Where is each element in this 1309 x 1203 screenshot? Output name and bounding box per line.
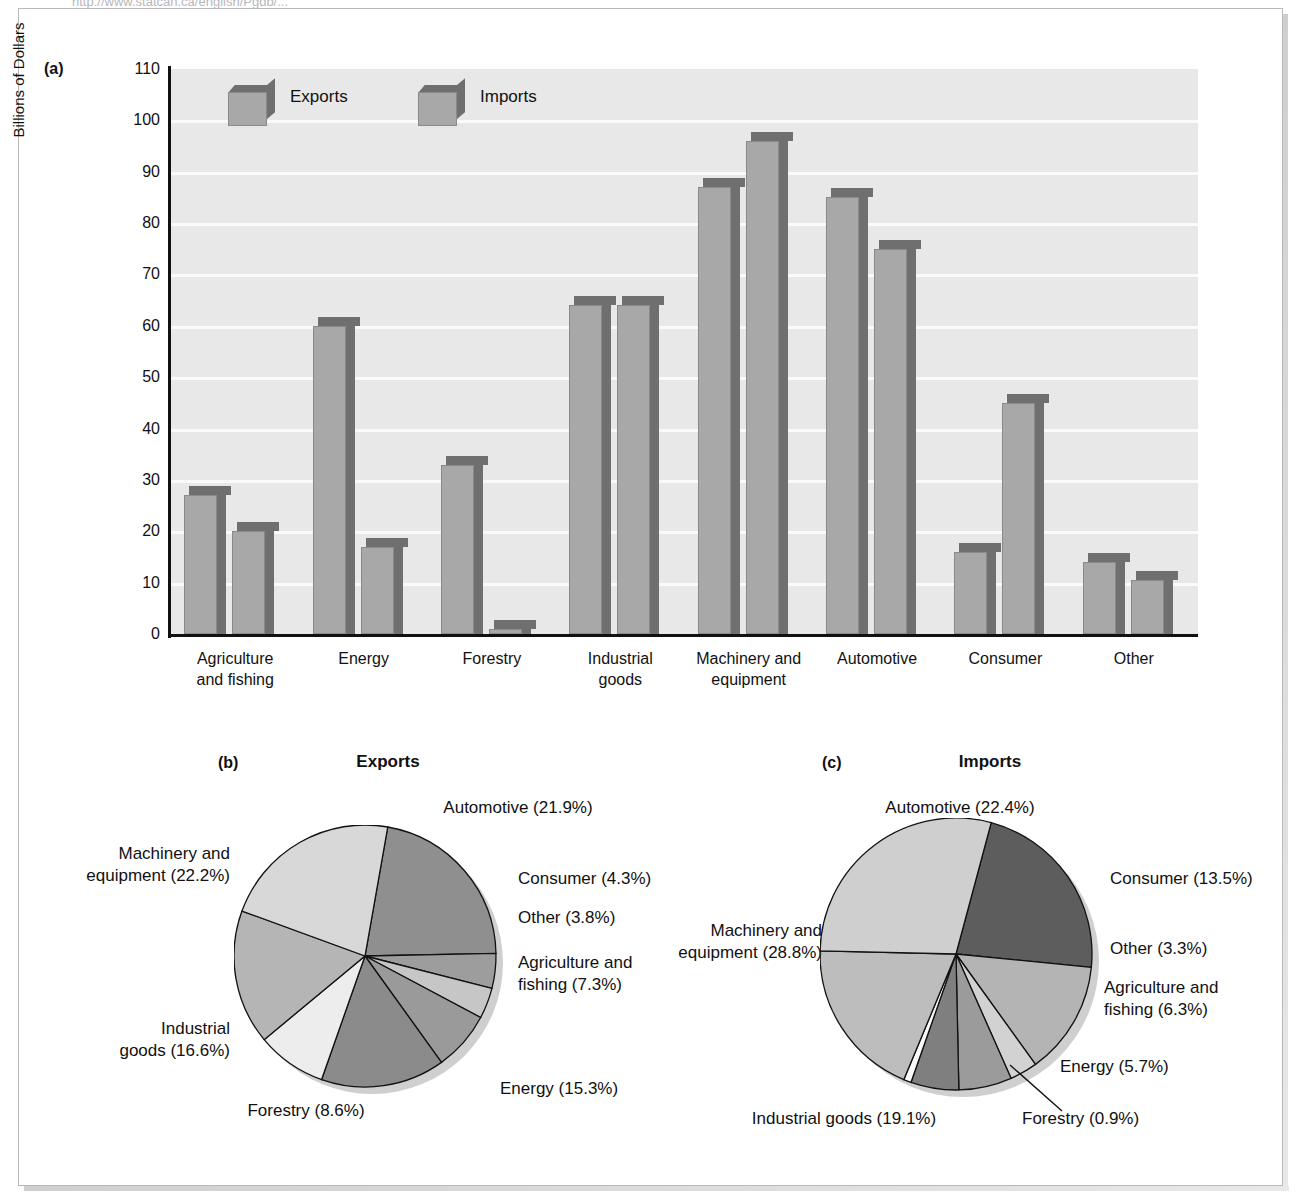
bar-imports-3 [617,296,659,634]
x-category-1: Energy [299,648,427,669]
y-tick-70: 70 [120,265,160,283]
panel-b-label-machinery: Machinery and equipment (22.2%) [18,843,230,887]
grid-line [171,223,1198,226]
bar-exports-6 [954,543,996,634]
y-tick-60: 60 [120,317,160,335]
y-tick-20: 20 [120,522,160,540]
bar-imports-5 [874,240,916,634]
x-axis-line [168,634,1198,637]
y-axis-tick-labels: 1101009080706050403020100 [112,69,160,634]
bar-imports-1 [361,538,403,634]
panel-c-label-agriculture: Agriculture and fishing (6.3%) [1104,977,1300,1021]
bar-exports-4 [698,178,740,634]
panel-b-pie [234,825,504,1095]
panel-a-bar-chart: (a) Billions of Dollars 1101009080706050… [0,0,1309,735]
y-tick-30: 30 [120,471,160,489]
x-category-5: Automotive [813,648,941,669]
chart-legend: ExportsImports [0,76,1309,130]
y-tick-90: 90 [120,163,160,181]
bar-exports-5 [826,188,868,634]
panel-c-label-energy: Energy (5.7%) [1060,1056,1250,1078]
panel-b-tag: (b) [218,754,238,772]
page-shadow-bottom [24,1186,1289,1191]
y-tick-40: 40 [120,420,160,438]
x-category-4: Machinery andequipment [685,648,813,690]
grid-line [171,172,1198,175]
bar-imports-0 [232,522,274,634]
bar-imports-4 [746,132,788,634]
bar-imports-2 [489,620,531,634]
y-tick-10: 10 [120,574,160,592]
panel-b-label-industrial: Industrial goods (16.6%) [30,1018,230,1062]
legend-cube-icon [228,85,274,119]
legend-label: Imports [480,87,537,107]
panel-c-label-consumer: Consumer (13.5%) [1110,868,1300,890]
bar-exports-1 [313,317,355,634]
y-axis-line [168,66,171,638]
bar-exports-3 [569,296,611,634]
panel-c-pie [820,818,1100,1098]
panel-b-title: Exports [268,752,508,772]
bar-imports-6 [1002,394,1044,634]
y-tick-0: 0 [120,625,160,643]
panel-c-label-machinery: Machinery and equipment (28.8%) [650,920,822,964]
x-category-6: Consumer [941,648,1069,669]
x-category-7: Other [1070,648,1198,669]
panel-c-forestry-leader-line [1010,1065,1070,1115]
panel-c-label-other: Other (3.3%) [1110,938,1300,960]
panel-c-title: Imports [870,752,1110,772]
bar-exports-0 [184,486,226,634]
panel-c-label-industrial: Industrial goods (19.1%) [694,1108,994,1130]
x-category-2: Forestry [428,648,556,669]
legend-cube-icon [418,85,464,119]
panel-c-tag: (c) [822,754,842,772]
panel-c-label-automotive: Automotive (22.4%) [830,797,1090,819]
panel-b-svg [234,825,508,1099]
bar-exports-7 [1083,553,1125,634]
panel-b-label-energy: Energy (15.3%) [500,1078,720,1100]
bar-exports-2 [441,456,483,635]
grid-line [171,274,1198,277]
panel-b-label-automotive: Automotive (21.9%) [368,797,668,819]
bar-imports-7 [1131,571,1173,634]
y-tick-50: 50 [120,368,160,386]
x-category-3: Industrialgoods [556,648,684,690]
y-tick-80: 80 [120,214,160,232]
x-category-0: Agricultureand fishing [171,648,299,690]
legend-label: Exports [290,87,348,107]
panel-b-label-consumer: Consumer (4.3%) [518,868,738,890]
panel-b-label-forestry: Forestry (8.6%) [186,1100,426,1122]
